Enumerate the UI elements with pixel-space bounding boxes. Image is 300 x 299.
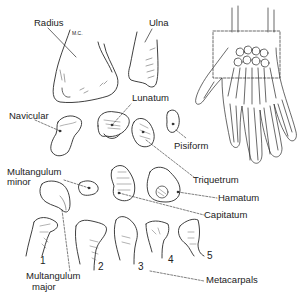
label-radius-note: M.C.	[72, 28, 83, 38]
wrist-bones-diagram: Radius M.C. Ulna Lunatum Navicular Pisif…	[0, 0, 300, 299]
label-multangulum-major-line2: major	[32, 282, 56, 292]
metacarpal-number-2: 2	[98, 262, 104, 272]
lunatum-leader	[112, 104, 131, 125]
metacarpal-3	[114, 217, 137, 264]
metacarpal-number-3: 3	[138, 262, 144, 272]
label-metacarpals: Metacarpals	[206, 275, 258, 285]
metacarpal-number-1: 1	[40, 256, 46, 266]
label-hamatum: Hamatum	[218, 193, 259, 203]
capitatum-leader	[119, 193, 204, 215]
hamatum-bone	[147, 167, 180, 202]
radius-bone	[53, 30, 118, 103]
label-lunatum: Lunatum	[132, 93, 169, 103]
label-multangulum-minor-line2: minor	[7, 177, 31, 187]
hamatum-leader	[178, 192, 217, 198]
pisiform-leader	[176, 130, 186, 138]
label-multangulum-major-line1: Multangulum	[26, 271, 80, 281]
multangulum-major-leader	[62, 210, 70, 272]
metacarpal-5	[178, 219, 204, 256]
metacarpal-1	[26, 218, 58, 257]
ulna-bone	[129, 32, 158, 87]
label-triquetrum: Triquetrum	[193, 175, 239, 185]
navicular-leader	[35, 120, 60, 131]
metacarpal-number-5: 5	[207, 251, 213, 261]
ulna-leader	[145, 29, 152, 42]
label-pisiform: Pisiform	[174, 141, 208, 151]
metacarpal-number-4: 4	[168, 255, 174, 265]
hand-inset	[196, 6, 297, 163]
navicular-bone	[51, 116, 82, 156]
label-navicular: Navicular	[9, 111, 49, 121]
label-capitatum: Capitatum	[204, 210, 247, 220]
label-radius: Radius	[34, 18, 64, 28]
lunatum-bone	[98, 112, 130, 139]
label-ulna: Ulna	[149, 18, 169, 28]
metacarpal-4	[146, 221, 169, 258]
capitatum-bone	[111, 166, 135, 201]
multangulum-major-bone	[40, 181, 70, 212]
triquetrum-bone	[132, 118, 154, 146]
metacarpals-leader	[150, 271, 204, 281]
pisiform-bone	[167, 110, 180, 132]
